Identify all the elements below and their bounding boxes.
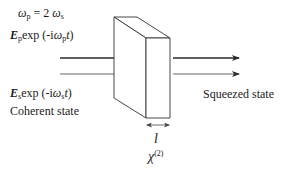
signal-field-label: Esexp (-iωst)	[10, 87, 72, 99]
crystal-length-label: l	[154, 132, 158, 146]
frequency-relation: ωp = 2 ωs	[18, 7, 64, 19]
coherent-state-label: Coherent state	[10, 105, 79, 117]
nonlinearity-label: χ(2)	[148, 150, 164, 164]
chi2-crystal	[114, 17, 170, 118]
squeezed-state-label: Squeezed state	[203, 88, 274, 100]
pump-field-label: Epexp (-iωpt)	[10, 29, 74, 41]
